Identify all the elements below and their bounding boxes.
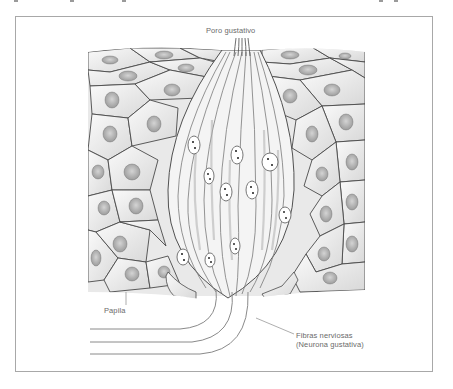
taste-bud-illustration	[0, 0, 453, 389]
fibras-leader	[256, 318, 294, 334]
label-papila: Papila	[104, 306, 125, 315]
label-poro-gustativo: Poro gustativo	[206, 26, 255, 35]
leader-lines	[126, 292, 294, 334]
nerve-fibers	[90, 290, 260, 366]
label-fibras-nerviosas: Fibras nerviosas (Neurona gustativa)	[296, 331, 364, 349]
label-fibras-line2: (Neurona gustativa)	[296, 340, 364, 349]
label-fibras-line1: Fibras nerviosas	[296, 331, 364, 340]
epithelium	[86, 44, 368, 300]
